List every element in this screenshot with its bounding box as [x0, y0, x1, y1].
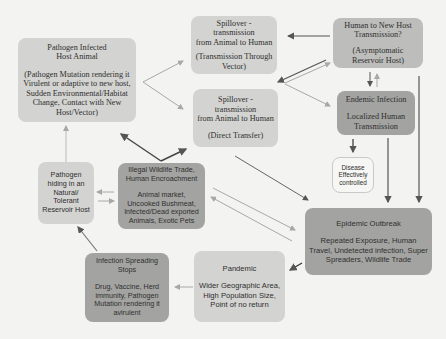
- node-human-to-new-host: Human to New Host Transmission? (Asympto…: [333, 18, 423, 68]
- node-pandemic: Pandemic Wider Geographic Area, High Pop…: [194, 251, 285, 322]
- node-spillover-vector: Spillover - transmission from Animal to …: [191, 16, 277, 74]
- node-endemic-infection: Endemic Infection Localized Human Transm…: [337, 91, 415, 135]
- node-illegal-wildlife-trade: Illegal Wildlife Trade, Human Encroachme…: [118, 163, 205, 229]
- node-disease-controlled: Disease Effectively controlled: [332, 157, 374, 193]
- node-reservoir-host: Pathogen hiding in an Natural/ Tolerant …: [38, 162, 94, 224]
- node-infection-spreading-stops: Infection Spreading Stops Drug, Vaccine,…: [85, 253, 169, 322]
- node-pathogen-infected-host: Pathogen Infected Host Animal (Pathogen …: [18, 38, 136, 122]
- node-epidemic-outbreak: Epidemic Outbreak Repeated Exposure, Hum…: [305, 208, 432, 275]
- node-spillover-direct: Spillover - transmission from Animal to …: [193, 89, 278, 147]
